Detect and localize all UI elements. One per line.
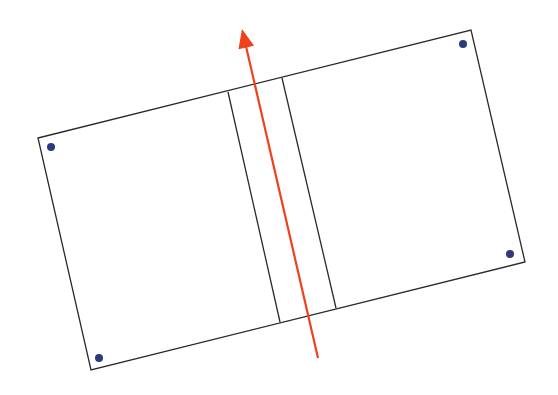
corner-dot-top-left: [47, 143, 55, 151]
inner-divider-line-right: [282, 78, 336, 308]
corner-dot-top-right: [459, 40, 467, 48]
diagram-canvas: [0, 0, 558, 395]
arrow-shaft: [246, 46, 318, 358]
arrow-head-icon: [238, 29, 254, 49]
corner-dot-bottom-left: [95, 354, 103, 362]
inner-divider-line-left: [228, 92, 280, 322]
corner-dot-bottom-right: [506, 250, 514, 258]
